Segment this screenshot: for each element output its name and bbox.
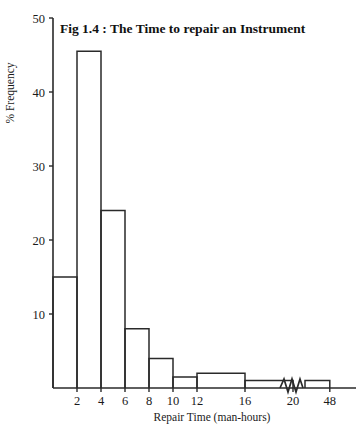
histogram-bar <box>101 210 125 388</box>
histogram-bar <box>305 381 330 388</box>
histogram-bar <box>173 377 197 388</box>
axis-break-icon <box>280 379 303 392</box>
histogram-bar <box>125 329 149 388</box>
x-tick-label: 10 <box>167 394 180 408</box>
x-tick-label: 2 <box>74 394 80 408</box>
histogram-bar <box>197 373 245 388</box>
y-tick-label: 20 <box>33 234 46 248</box>
histogram-figure: Fig 1.4 : The Time to repair an Instrume… <box>0 0 360 432</box>
x-tick-label: 8 <box>146 394 152 408</box>
histogram-bar <box>53 277 77 388</box>
chart-canvas: Fig 1.4 : The Time to repair an Instrume… <box>0 0 360 432</box>
x-tick-label: 16 <box>239 394 252 408</box>
x-tick-label: 6 <box>122 394 128 408</box>
x-axis-title: Repair Time (man-hours) <box>154 411 271 424</box>
chart-title: Fig 1.4 : The Time to repair an Instrume… <box>60 21 306 36</box>
x-tick-label: 4 <box>98 394 105 408</box>
x-tick-label: 20 <box>287 394 300 408</box>
x-tick-label: 12 <box>191 394 204 408</box>
histogram-bar <box>149 358 173 388</box>
histogram-bar <box>77 51 101 388</box>
y-tick-label: 10 <box>33 308 46 322</box>
y-axis-title: % Frequency <box>4 62 17 123</box>
y-tick-label: 50 <box>33 12 46 26</box>
y-tick-label: 40 <box>33 86 46 100</box>
x-tick-label: 48 <box>324 394 337 408</box>
y-tick-label: 30 <box>33 160 46 174</box>
